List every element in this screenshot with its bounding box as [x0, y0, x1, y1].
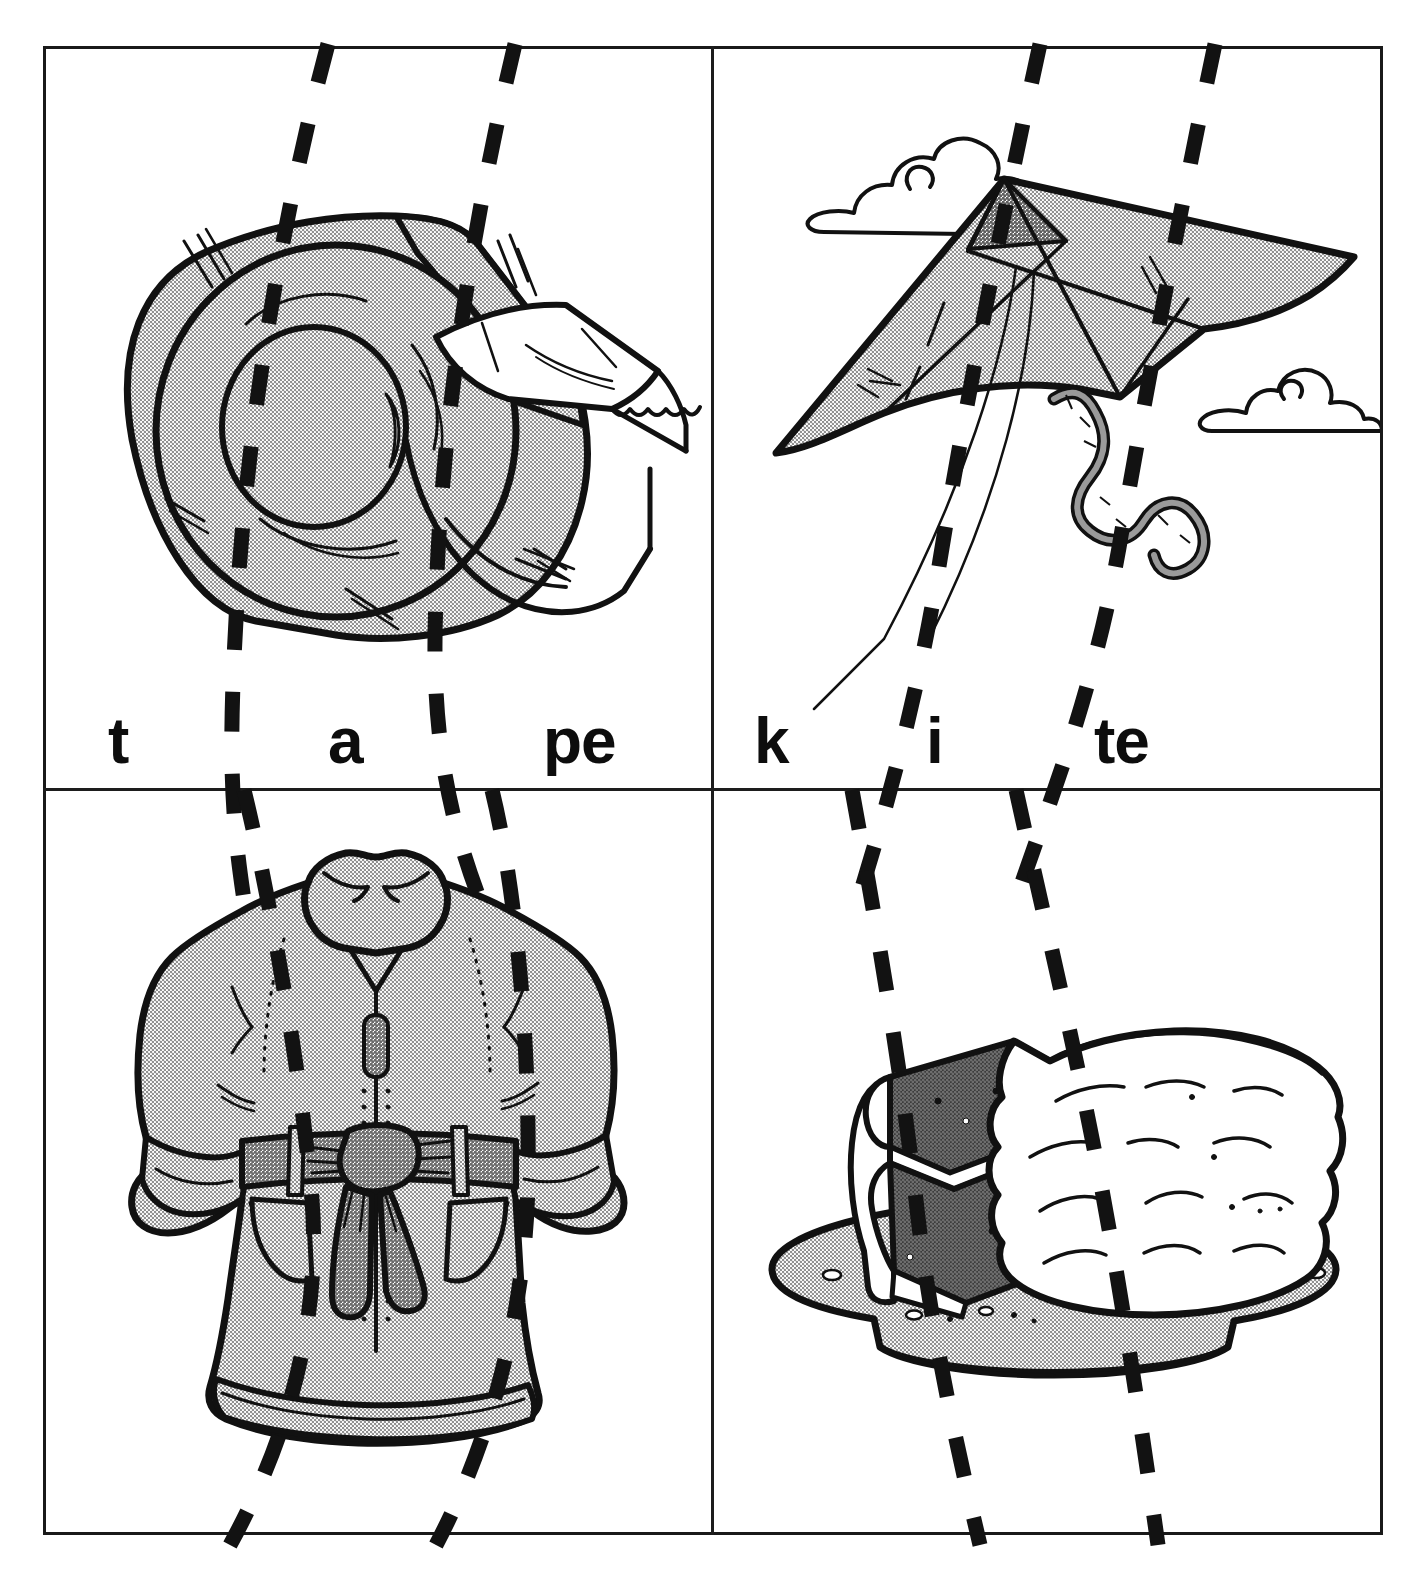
kite-tail — [1054, 393, 1204, 574]
cake-illustration — [714, 791, 1380, 1532]
worksheet-sheet: t a pe — [0, 0, 1417, 1580]
tape-dispenser-illustration — [46, 49, 711, 788]
cloud-right — [1200, 370, 1380, 431]
card-kite[interactable]: k i te — [714, 49, 1380, 788]
card-cake[interactable]: c a ke — [714, 791, 1380, 1532]
card-tape[interactable]: t a pe — [46, 49, 711, 788]
kite-illustration — [714, 49, 1380, 788]
cake-body — [989, 1031, 1343, 1315]
card-coat[interactable]: c oa t — [46, 791, 711, 1532]
coat-illustration — [46, 791, 711, 1532]
